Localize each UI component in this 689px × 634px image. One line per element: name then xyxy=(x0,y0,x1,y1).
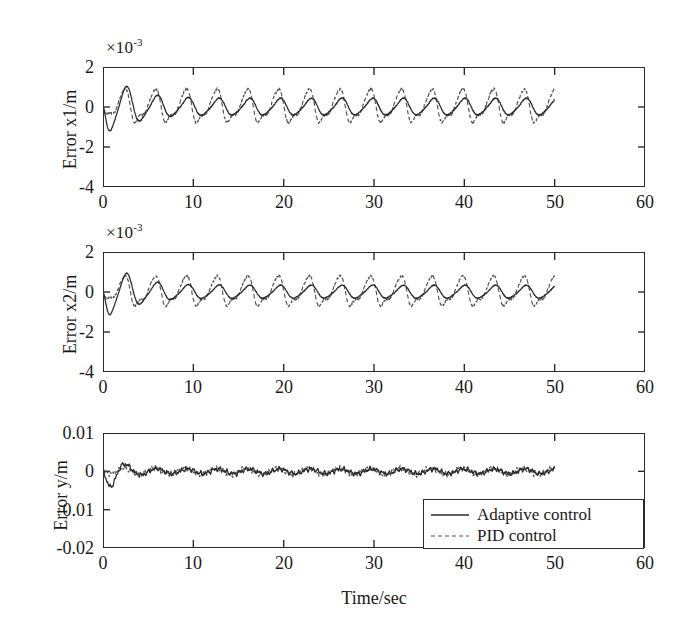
x-tick-panel1-6: 60 xyxy=(625,192,665,213)
x-tick-panel2-6: 60 xyxy=(625,377,665,398)
exponent-label-panel1: ×10-3 xyxy=(106,36,143,58)
x-tick-panel3-2: 20 xyxy=(264,553,304,574)
y-tick-panel2-1: 0 xyxy=(62,282,94,303)
plot-panel-error-x2 xyxy=(103,252,645,372)
x-axis-label: Time/sec xyxy=(274,588,474,609)
x-tick-panel3-5: 50 xyxy=(535,553,575,574)
plot-panel-error-x1 xyxy=(103,67,645,187)
x-axis-ticks-panel2 xyxy=(193,252,554,372)
y-tick-panel2-2: -2 xyxy=(55,322,94,343)
plot-canvas-panel1 xyxy=(103,67,645,187)
y-tick-panel3-0: 0.01 xyxy=(34,423,94,444)
y-axis-ticks-panel1 xyxy=(103,107,645,147)
x-tick-panel2-2: 20 xyxy=(264,377,304,398)
x-tick-panel1-4: 40 xyxy=(444,192,484,213)
y-tick-panel1-1: 0 xyxy=(62,97,94,118)
x-tick-panel1-2: 20 xyxy=(264,192,304,213)
y-axis-ticks-panel2 xyxy=(103,292,645,332)
legend-label-pid: PID control xyxy=(477,527,557,544)
x-tick-panel2-1: 10 xyxy=(173,377,213,398)
x-tick-panel2-4: 40 xyxy=(444,377,484,398)
y-tick-panel3-2: -0.01 xyxy=(26,500,94,521)
series-line-pid-panel2 xyxy=(103,275,555,307)
legend: Adaptive control PID control xyxy=(423,499,644,549)
y-tick-panel3-1: 0 xyxy=(34,461,94,482)
x-tick-panel3-1: 10 xyxy=(173,553,213,574)
exponent-label-panel2: ×10-3 xyxy=(106,221,143,243)
legend-item-adaptive[interactable]: Adaptive control xyxy=(430,504,635,525)
y-tick-panel2-0: 2 xyxy=(62,242,94,263)
x-tick-panel3-6: 60 xyxy=(625,553,665,574)
series-line-adaptive-panel3 xyxy=(103,463,555,488)
dashed-line-icon xyxy=(430,530,470,542)
legend-label-adaptive: Adaptive control xyxy=(477,506,592,523)
x-tick-panel2-5: 50 xyxy=(535,377,575,398)
x-tick-panel2-3: 30 xyxy=(354,377,394,398)
x-axis-ticks-panel1 xyxy=(193,67,554,187)
series-line-adaptive-panel1 xyxy=(103,86,555,131)
legend-item-pid[interactable]: PID control xyxy=(430,525,635,546)
x-tick-panel3-4: 40 xyxy=(444,553,484,574)
x-tick-panel1-1: 10 xyxy=(173,192,213,213)
y-tick-panel1-2: -2 xyxy=(55,137,94,158)
x-tick-panel1-0: 0 xyxy=(83,192,123,213)
x-tick-panel3-0: 0 xyxy=(83,553,123,574)
figure-error-comparison: ×10-3 Error x1/m 2 0 -2 -4 xyxy=(0,0,689,634)
x-tick-panel2-0: 0 xyxy=(83,377,123,398)
x-tick-panel1-5: 50 xyxy=(535,192,575,213)
x-tick-panel3-3: 30 xyxy=(354,553,394,574)
x-tick-panel1-3: 30 xyxy=(354,192,394,213)
y-tick-panel1-0: 2 xyxy=(62,57,94,78)
plot-canvas-panel2 xyxy=(103,252,645,372)
solid-line-icon xyxy=(430,509,470,521)
series-line-adaptive-panel2 xyxy=(103,273,555,315)
series-line-pid-panel1 xyxy=(103,88,555,124)
